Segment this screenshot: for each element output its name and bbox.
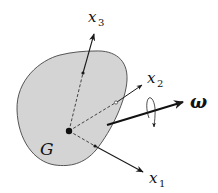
rigid-body — [17, 51, 127, 166]
center-label: G — [40, 139, 54, 159]
x1-label: x 1 — [149, 169, 165, 189]
x3-label-base: x — [88, 8, 97, 26]
x2-label: x 2 — [147, 69, 163, 89]
x1-label-sub: 1 — [159, 178, 165, 189]
x3-intersection-dot — [81, 71, 84, 74]
x3-label-sub: 3 — [98, 17, 104, 28]
x2-label-sub: 2 — [157, 78, 163, 89]
x3-label: x 3 — [88, 8, 104, 28]
x2-label-base: x — [147, 69, 156, 87]
omega-label: ω — [190, 91, 207, 112]
x2-intersection-circle — [114, 101, 117, 104]
center-of-mass-point — [66, 128, 72, 134]
x1-label-base: x — [149, 169, 158, 187]
x1-intersection-dot — [93, 144, 96, 147]
x1-axis-arrow — [95, 146, 143, 172]
diagram-canvas: G ω x 3 x 2 x 1 — [0, 0, 218, 193]
rigid-body-diagram: G ω x 3 x 2 x 1 — [0, 0, 218, 193]
